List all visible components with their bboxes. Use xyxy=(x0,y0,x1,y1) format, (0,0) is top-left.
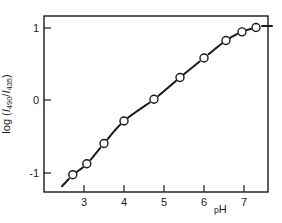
curve-segment xyxy=(158,81,176,96)
data-point-marker-8 xyxy=(238,28,246,36)
data-point-marker-9 xyxy=(252,24,260,32)
y-axis-title: log (I490/I435) xyxy=(0,74,12,133)
chart-canvas xyxy=(0,0,282,223)
curve-lead-dash xyxy=(62,179,69,186)
y-axis-title-sub-490: 490 xyxy=(5,97,14,110)
y-axis-title-i435: I xyxy=(0,91,12,94)
curve-segment xyxy=(90,148,100,160)
curve-segment xyxy=(128,103,149,118)
data-point-marker-1 xyxy=(83,160,91,168)
curve-segment xyxy=(108,124,121,139)
x-tick-label-4: 4 xyxy=(121,196,127,208)
figure-container: 3 4 5 6 7 1 0 -1 log (I490/I435) pH xyxy=(0,0,282,223)
x-axis-ticks xyxy=(84,185,244,192)
data-point-marker-7 xyxy=(222,37,230,45)
x-tick-label-7: 7 xyxy=(241,196,247,208)
x-axis-title-h: H xyxy=(219,203,227,215)
data-point-marker-3 xyxy=(120,117,128,125)
plot-frame xyxy=(44,16,268,192)
data-curve xyxy=(77,29,251,172)
x-tick-label-3: 3 xyxy=(81,196,87,208)
data-point-marker-4 xyxy=(150,95,158,103)
curve-segment xyxy=(230,34,237,38)
y-tick-label-0: 0 xyxy=(28,94,39,106)
data-point-marker-0 xyxy=(69,171,77,179)
data-point-marker-2 xyxy=(100,140,108,148)
y-tick-label-neg1: -1 xyxy=(24,167,39,179)
y-axis-title-sub-435: 435 xyxy=(5,78,14,91)
data-markers xyxy=(69,24,260,179)
x-axis-title: pH xyxy=(214,203,227,215)
curve-segment xyxy=(184,62,200,75)
data-point-marker-5 xyxy=(176,74,184,82)
x-tick-label-5: 5 xyxy=(161,196,167,208)
x-tick-label-6: 6 xyxy=(201,196,207,208)
curve-segment xyxy=(247,29,251,30)
data-point-marker-6 xyxy=(200,54,208,62)
y-axis-title-prefix: log ( xyxy=(0,112,12,133)
y-axis-ticks xyxy=(44,28,51,173)
y-tick-label-1: 1 xyxy=(28,22,39,34)
curve-segment xyxy=(208,43,222,54)
curve-segment xyxy=(77,167,83,172)
